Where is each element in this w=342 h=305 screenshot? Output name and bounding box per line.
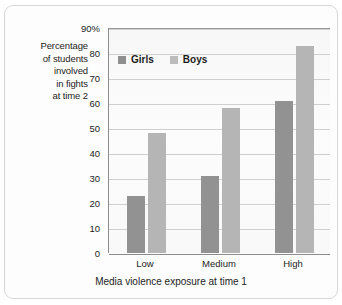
y-axis-tick: 10 bbox=[89, 223, 100, 234]
y-axis-tick: 40 bbox=[89, 148, 100, 159]
bar-boys-low bbox=[148, 133, 166, 253]
x-axis-tick-high: High bbox=[283, 258, 303, 269]
legend-label-boys: Boys bbox=[183, 54, 207, 65]
y-axis-tick: 70 bbox=[89, 73, 100, 84]
y-axis-tick: 60 bbox=[89, 98, 100, 109]
bar-girls-low bbox=[127, 196, 145, 254]
x-axis-label: Media violence exposure at time 1 bbox=[0, 276, 342, 287]
y-axis-tick: 30 bbox=[89, 173, 100, 184]
y-axis-tick: 0 bbox=[95, 248, 100, 259]
x-axis-tick-low: Low bbox=[136, 258, 153, 269]
legend-item-boys: Boys bbox=[170, 54, 207, 65]
chart-legend: Girls Boys bbox=[118, 54, 207, 65]
y-axis-tick: 50 bbox=[89, 123, 100, 134]
gridline bbox=[109, 254, 330, 255]
x-axis-tick-labels: LowMediumHigh bbox=[108, 258, 330, 272]
chart-figure: Percentage of students involved in fight… bbox=[0, 0, 342, 305]
y-axis-tick: 90% bbox=[81, 23, 100, 34]
legend-swatch-girls-icon bbox=[118, 56, 126, 64]
y-axis-tick-labels: 90%80706050403020100 bbox=[76, 28, 104, 253]
y-axis-tick: 20 bbox=[89, 198, 100, 209]
gridline bbox=[109, 29, 330, 30]
bar-girls-high bbox=[275, 101, 293, 254]
bar-boys-high bbox=[296, 46, 314, 254]
bar-boys-medium bbox=[222, 108, 240, 253]
legend-swatch-boys-icon bbox=[170, 56, 178, 64]
legend-item-girls: Girls bbox=[118, 54, 154, 65]
x-axis-tick-medium: Medium bbox=[202, 258, 236, 269]
legend-label-girls: Girls bbox=[131, 54, 154, 65]
bar-girls-medium bbox=[201, 176, 219, 254]
y-axis-tick: 80 bbox=[89, 48, 100, 59]
